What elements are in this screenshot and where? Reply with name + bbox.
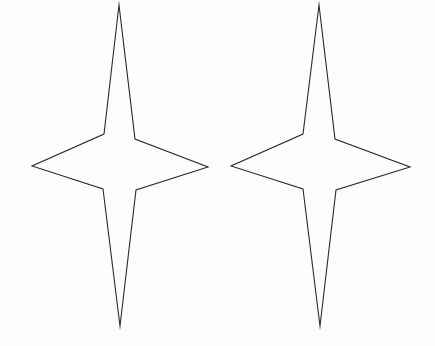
figure-svg [0,0,435,346]
canvas-background [0,0,435,346]
drawing-canvas [0,0,435,346]
